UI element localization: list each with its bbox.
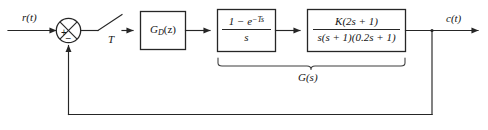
block-label-plant: K(2s + 1) s(s + 1)(0.2s + 1) [313,16,400,43]
plant-fraction-bar [313,29,400,30]
plant-numerator: K(2s + 1) [332,16,381,27]
zoh-numerator-exponent: −Ts [252,15,264,24]
sampler-period-label: T [108,34,114,45]
block-label-zero-order-hold: 1 − e−Ts s [222,16,271,43]
output-signal-label: c(t) [446,13,461,24]
brace-path-g-of-s [218,58,405,70]
block-diagram-canvas: r(t) + − T GD(z) 1 − e−Ts s K(2s + 1) s(… [0,0,488,130]
zoh-numerator: 1 − e−Ts [226,16,267,27]
summing-junction-minus-sign: − [66,34,72,44]
sampler-switch-blade [98,15,122,31]
zoh-numerator-prefix: 1 − e [229,15,252,27]
block-label-digital-controller-base: G [150,23,158,35]
input-signal-label: r(t) [22,12,37,23]
zoh-fraction-bar [222,29,271,30]
plant-denominator: s(s + 1)(0.2s + 1) [314,32,398,43]
zoh-denominator: s [241,32,251,43]
block-label-digital-controller: GD(z) [141,24,186,37]
brace-label-g-of-s: G(s) [298,72,318,83]
block-label-digital-controller-suffix: (z) [164,23,176,35]
